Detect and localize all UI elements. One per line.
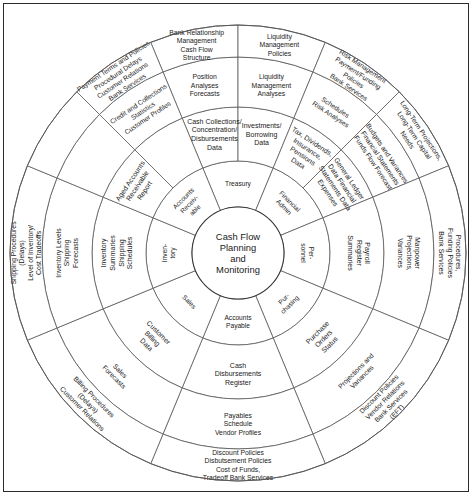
svg-text:Funding Policies: Funding Policies <box>446 228 454 278</box>
svg-text:Management: Management <box>260 41 300 49</box>
svg-text:Management: Management <box>252 82 292 90</box>
svg-text:sonnel: sonnel <box>300 243 307 263</box>
svg-text:Forecasts: Forecasts <box>72 237 79 267</box>
svg-text:Schedules: Schedules <box>126 236 133 269</box>
cash-flow-wheel-diagram: TreasuryCash Collections/Concentration/D… <box>4 4 470 493</box>
svg-text:Bank Services: Bank Services <box>438 231 445 275</box>
svg-text:Shipping: Shipping <box>118 239 126 266</box>
svg-text:Shipping: Shipping <box>63 240 71 267</box>
svg-text:(Delays): (Delays) <box>18 240 26 265</box>
svg-text:Inven-: Inven- <box>161 244 168 262</box>
diagram-frame: TreasuryCash Collections/Concentration/D… <box>3 3 469 492</box>
label-treasury: Treasury <box>225 180 251 188</box>
svg-text:tory: tory <box>169 247 177 259</box>
label-personnel-ring3-0: ManpowerProjections,Variances <box>397 235 421 271</box>
label-accounts-payable: AccountsPayable <box>224 314 252 330</box>
label-treasury-ring3-0: PositionAnalysesForecasts <box>190 73 220 97</box>
svg-text:Cost of Funds,: Cost of Funds, <box>216 466 260 473</box>
svg-text:Treasury: Treasury <box>225 180 251 188</box>
svg-text:Cash Flow: Cash Flow <box>216 231 261 242</box>
svg-text:Payables: Payables <box>224 412 253 420</box>
svg-text:Position: Position <box>193 73 217 80</box>
svg-text:Cash: Cash <box>230 362 246 369</box>
svg-text:Vendor Profiles: Vendor Profiles <box>215 429 262 436</box>
svg-text:Procedures,: Procedures, <box>455 235 462 272</box>
svg-text:Summaries: Summaries <box>347 235 354 271</box>
svg-text:Inventory Levels: Inventory Levels <box>55 228 63 278</box>
svg-text:Cash Flow: Cash Flow <box>181 46 213 53</box>
svg-text:Liquidity: Liquidity <box>259 73 285 81</box>
svg-text:Borrowing: Borrowing <box>246 131 278 139</box>
label-inventory-ring2-0: InventorySummariesShippingSchedules <box>100 235 133 271</box>
svg-text:Register: Register <box>225 379 252 387</box>
svg-text:Schedule: Schedule <box>224 420 253 427</box>
svg-text:Inventory: Inventory <box>100 238 108 267</box>
svg-text:Forecasts: Forecasts <box>190 90 220 97</box>
svg-text:Register: Register <box>355 240 363 267</box>
svg-text:Discount Policies: Discount Policies <box>212 449 264 456</box>
svg-text:and: and <box>230 253 246 264</box>
svg-text:Monitoring: Monitoring <box>216 264 260 275</box>
svg-text:Analyses: Analyses <box>258 90 286 98</box>
svg-text:Planning: Planning <box>220 242 257 253</box>
svg-text:Policies: Policies <box>268 50 292 57</box>
svg-text:Disbursements: Disbursements <box>215 370 262 377</box>
svg-text:Manpower: Manpower <box>413 237 421 269</box>
svg-text:Summaries: Summaries <box>109 235 116 271</box>
svg-text:Investments/: Investments/ <box>242 122 282 129</box>
label-personnel-ring4-0: Procedures,Funding PoliciesBank Services <box>438 228 462 278</box>
svg-text:Cash Collections/: Cash Collections/ <box>187 118 242 125</box>
center-hub-label: Cash FlowPlanningandMonitoring <box>216 231 261 275</box>
svg-text:Accounts: Accounts <box>224 314 252 321</box>
svg-text:Payable: Payable <box>226 322 250 330</box>
svg-text:Disbursements: Disbursements <box>191 135 238 142</box>
svg-text:Cost Tradeoffs: Cost Tradeoffs <box>35 230 42 275</box>
svg-text:Analyses: Analyses <box>191 82 219 90</box>
svg-text:Concentration/: Concentration/ <box>192 126 238 133</box>
svg-text:Projections,: Projections, <box>405 235 413 271</box>
svg-text:Variances: Variances <box>397 238 404 268</box>
svg-text:Per-: Per- <box>308 247 315 259</box>
svg-text:Level of Inventory/: Level of Inventory/ <box>27 225 35 281</box>
svg-text:Management: Management <box>177 37 217 45</box>
svg-text:Structure: Structure <box>183 54 211 61</box>
svg-text:Disbutsement Policies: Disbutsement Policies <box>205 457 272 464</box>
svg-text:Payroll: Payroll <box>363 242 371 264</box>
svg-text:Liquidity: Liquidity <box>267 33 293 41</box>
svg-text:Data: Data <box>207 144 222 151</box>
svg-text:Data: Data <box>254 139 269 146</box>
